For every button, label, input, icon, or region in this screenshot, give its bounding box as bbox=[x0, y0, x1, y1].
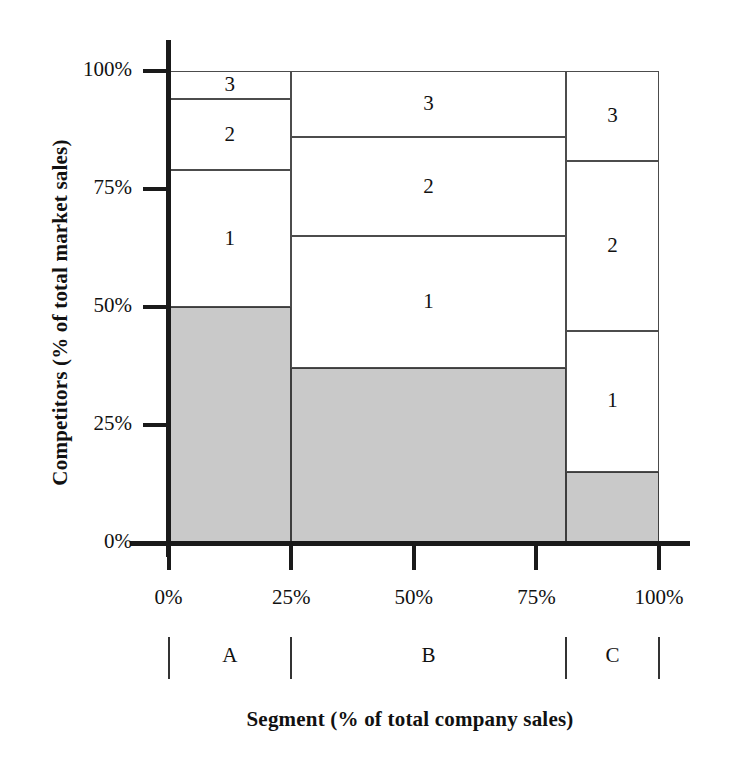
block-a-company bbox=[169, 307, 292, 543]
block-label: 1 bbox=[567, 388, 658, 413]
block-label: 1 bbox=[292, 289, 565, 314]
block-b-competitor-1: 1 bbox=[291, 236, 566, 368]
block-c-competitor-1: 1 bbox=[566, 331, 659, 473]
x-axis-title: Segment (% of total company sales) bbox=[110, 707, 710, 732]
x-tick-label: 100% bbox=[609, 585, 709, 610]
segment-divider bbox=[168, 637, 170, 679]
segment-label-c: C bbox=[572, 643, 652, 668]
x-tick-label: 50% bbox=[364, 585, 464, 610]
block-label: 3 bbox=[170, 72, 291, 97]
x-axis-line bbox=[130, 541, 690, 546]
y-tick-mark bbox=[143, 423, 169, 427]
x-tick-mark bbox=[534, 546, 538, 570]
y-tick-label: 50% bbox=[48, 293, 132, 318]
x-tick-mark bbox=[167, 546, 171, 570]
y-tick-mark bbox=[143, 69, 169, 73]
block-c-competitor-3: 3 bbox=[566, 71, 659, 161]
segment-divider bbox=[565, 637, 567, 679]
block-b-company bbox=[291, 368, 566, 543]
block-c-competitor-2: 2 bbox=[566, 161, 659, 331]
y-tick-label: 0% bbox=[48, 529, 132, 554]
y-axis-line bbox=[166, 40, 171, 557]
segment-divider bbox=[658, 637, 660, 679]
x-tick-label: 75% bbox=[486, 585, 586, 610]
block-a-competitor-2: 2 bbox=[169, 99, 292, 170]
block-a-competitor-3: 3 bbox=[169, 71, 292, 99]
x-tick-label: 25% bbox=[241, 585, 341, 610]
segment-divider bbox=[290, 637, 292, 679]
y-tick-label: 75% bbox=[48, 175, 132, 200]
segment-label-a: A bbox=[190, 643, 270, 668]
x-tick-mark bbox=[289, 546, 293, 570]
block-label: 2 bbox=[292, 174, 565, 199]
y-tick-label: 100% bbox=[48, 57, 132, 82]
x-tick-mark bbox=[412, 546, 416, 570]
block-b-competitor-3: 3 bbox=[291, 71, 566, 137]
y-tick-mark bbox=[143, 305, 169, 309]
segment-label-b: B bbox=[388, 643, 468, 668]
block-label: 2 bbox=[170, 122, 291, 147]
y-tick-mark bbox=[143, 541, 169, 545]
block-b-competitor-2: 2 bbox=[291, 137, 566, 236]
block-label: 3 bbox=[567, 103, 658, 128]
block-label: 1 bbox=[170, 226, 291, 251]
y-tick-mark bbox=[143, 187, 169, 191]
block-c-company bbox=[566, 472, 659, 543]
block-a-competitor-1: 1 bbox=[169, 170, 292, 307]
block-label: 2 bbox=[567, 233, 658, 258]
block-label: 3 bbox=[292, 91, 565, 116]
marimekko-chart: Competitors (% of total market sales) Se… bbox=[0, 0, 745, 759]
x-tick-label: 0% bbox=[119, 585, 219, 610]
x-tick-mark bbox=[657, 546, 661, 570]
y-tick-label: 25% bbox=[48, 411, 132, 436]
